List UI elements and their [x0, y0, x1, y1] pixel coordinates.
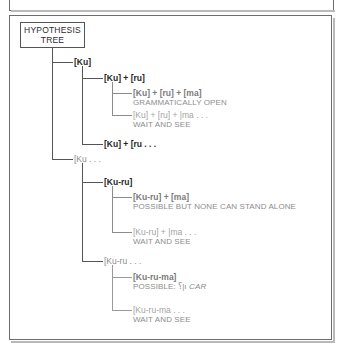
branch-to-ku-ru	[82, 78, 103, 79]
node-ku-ru-open-label: [Ku] + [ru . . .	[104, 139, 156, 149]
node-kuruma-open: [Ku-ru-ma . . . WAIT AND SEE	[133, 305, 191, 325]
node-kuruma-status-word: CAR	[189, 282, 207, 291]
node-kuru-ma-open: [Ku-ru] + |ma . . . WAIT AND SEE	[133, 227, 196, 247]
node-ku-ru: [Ku] + [ru]	[104, 73, 145, 83]
trunk-level3-ku-ru	[112, 82, 113, 115]
trunk-level2-ku-open	[82, 163, 83, 261]
branch-to-ku	[52, 62, 73, 63]
node-kuru: [Ku-ru]	[104, 177, 132, 187]
node-kuru-open-label: [Ku-ru . . .	[104, 256, 141, 266]
node-ku-ru-ma-open: [Ku] + [ru] + |ma . . . WAIT AND SEE	[133, 110, 208, 130]
node-kuru-open: [Ku-ru . . .	[104, 256, 141, 266]
node-ku-ru-ma-open-label: [Ku] + [ru] + |ma . . .	[133, 110, 208, 120]
node-ku-ru-label: [Ku] + [ru]	[104, 73, 145, 83]
node-kuru-ma-open-label: [Ku-ru] + |ma . . .	[133, 227, 196, 237]
trunk-level1	[52, 48, 53, 159]
node-ku-ru-open: [Ku] + [ru . . .	[104, 139, 156, 149]
node-kuruma-status-mark: ⸮|ı	[178, 282, 187, 291]
node-ku-open-label: [Ku . . .	[74, 154, 101, 164]
node-kuru-ma-label: [Ku-ru] + [ma]	[133, 192, 296, 202]
node-kuru-ma: [Ku-ru] + [ma] POSSIBLE BUT NONE CAN STA…	[133, 192, 296, 212]
node-ku-ru-ma: [Ku] + [ru] + [ma] GRAMMATICALLY OPEN	[133, 88, 227, 108]
branch-to-kuru	[82, 182, 103, 183]
branch-to-ku-ru-open	[82, 144, 103, 145]
trunk-level3-kuru-open	[112, 265, 113, 310]
node-kuruma-label: [Ku-ru-ma]	[133, 272, 207, 282]
node-kuru-label: [Ku-ru]	[104, 177, 132, 187]
root-label-line2: TREE	[41, 35, 64, 45]
branch-to-kuruma-open	[112, 310, 132, 311]
root-node-hypothesis-tree: HYPOTHESIS TREE	[20, 22, 85, 48]
trunk-level3-kuru	[112, 186, 113, 232]
node-kuruma-status: POSSIBLE: ⸮|ı CAR	[133, 282, 207, 292]
node-kuruma-open-status: WAIT AND SEE	[133, 315, 191, 325]
node-ku-open: [Ku . . .	[74, 154, 101, 164]
node-ku-ru-ma-open-status: WAIT AND SEE	[133, 120, 208, 130]
node-ku-ru-ma-status: GRAMMATICALLY OPEN	[133, 98, 227, 108]
root-label-line1: HYPOTHESIS	[24, 25, 81, 35]
node-kuruma: [Ku-ru-ma] POSSIBLE: ⸮|ı CAR	[133, 272, 207, 292]
branch-to-ku-ru-ma-open	[112, 115, 132, 116]
branch-to-ku-open	[52, 159, 73, 160]
node-kuru-ma-open-status: WAIT AND SEE	[133, 237, 196, 247]
node-kuru-ma-status: POSSIBLE BUT NONE CAN STAND ALONE	[133, 202, 296, 212]
branch-to-kuru-open	[82, 261, 103, 262]
node-kuruma-open-label: [Ku-ru-ma . . .	[133, 305, 191, 315]
previous-figure-frame-shadow	[11, 10, 335, 12]
node-kuruma-status-prefix: POSSIBLE:	[133, 282, 176, 291]
figure-frame-shadow-bottom	[11, 341, 335, 343]
figure-frame-shadow-right	[333, 18, 335, 343]
branch-to-kuru-ma-open	[112, 232, 132, 233]
branch-to-ku-ru-ma	[112, 93, 132, 94]
node-ku-ru-ma-label: [Ku] + [ru] + [ma]	[133, 88, 227, 98]
branch-to-kuru-ma	[112, 197, 132, 198]
branch-to-kuruma	[112, 277, 132, 278]
